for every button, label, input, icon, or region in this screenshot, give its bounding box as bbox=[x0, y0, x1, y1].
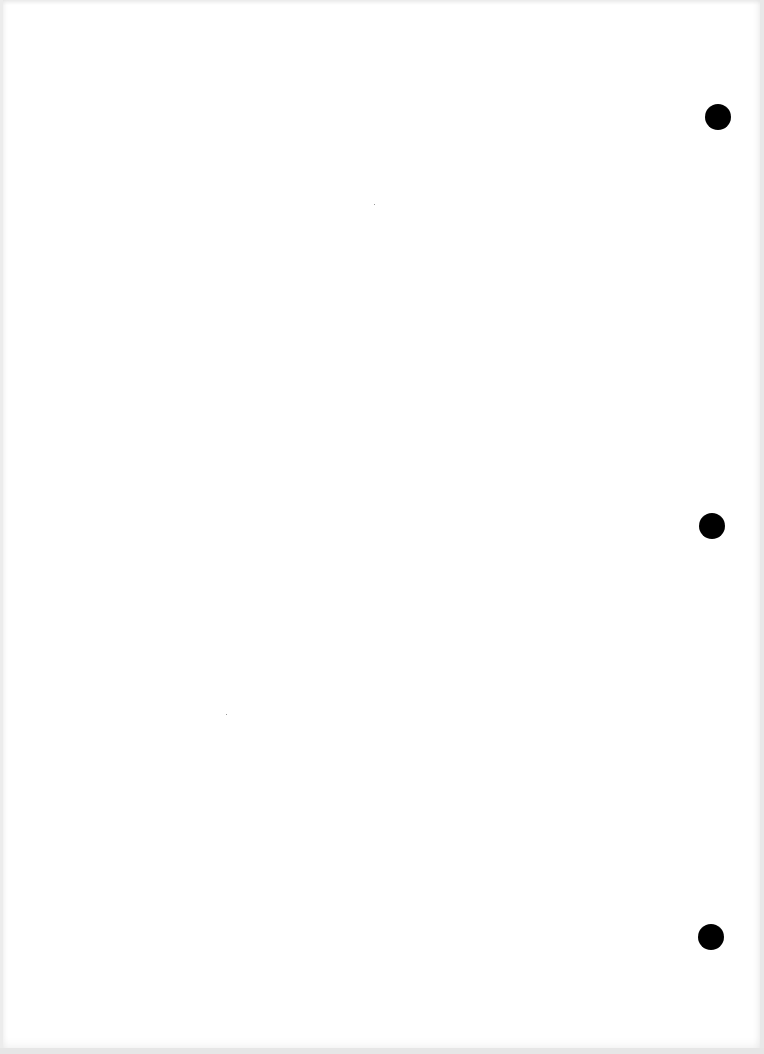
page-edge-left bbox=[0, 0, 3, 1054]
page-edge-right bbox=[760, 0, 764, 1054]
punch-hole-bottom bbox=[698, 924, 724, 950]
scanned-page bbox=[0, 0, 764, 1054]
punch-hole-top bbox=[705, 104, 731, 130]
page-edge-bottom bbox=[0, 1048, 764, 1054]
punch-hole-middle bbox=[699, 513, 725, 539]
scan-speck bbox=[226, 714, 227, 715]
scan-speck bbox=[374, 204, 375, 205]
